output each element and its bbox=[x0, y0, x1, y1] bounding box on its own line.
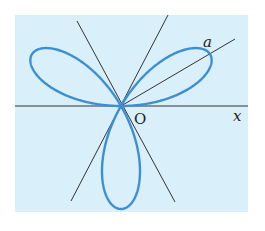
x-axis-label: x bbox=[233, 107, 242, 125]
diagram-canvas: O x a bbox=[0, 0, 265, 231]
background-panel bbox=[15, 15, 248, 212]
radius-label: a bbox=[203, 33, 212, 51]
origin-label: O bbox=[134, 110, 146, 128]
rose-curve-figure: O x a bbox=[0, 0, 265, 231]
